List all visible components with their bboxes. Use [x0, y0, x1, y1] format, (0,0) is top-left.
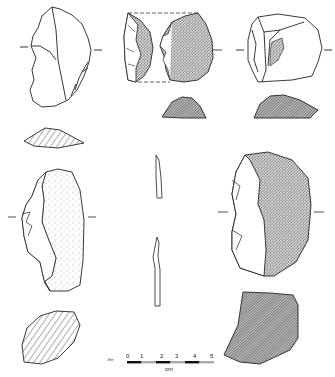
artifact-a-section	[24, 128, 84, 148]
artifact-d-section	[22, 311, 80, 364]
artifact-b-section	[162, 97, 206, 118]
artifact-b	[124, 13, 222, 82]
artifact-e	[153, 155, 162, 306]
scale-tick-5: 5	[210, 353, 213, 359]
scale-tick-0: 0	[126, 353, 129, 359]
scale-tick-2: 2	[160, 353, 163, 359]
scale-tick-1: 1	[140, 353, 143, 359]
artifact-a	[20, 7, 102, 107]
artifact-c-section	[254, 95, 318, 118]
artifact-f	[218, 152, 324, 276]
artifact-plate	[0, 0, 335, 377]
scale-unit: cm	[165, 366, 173, 372]
artifact-c-cortex	[270, 38, 284, 66]
scale-bar	[127, 361, 214, 363]
scale-tick-4: 4	[193, 353, 196, 359]
artifact-f-section	[224, 292, 298, 364]
scale-signature: Jnr	[107, 357, 114, 362]
artifact-d	[8, 169, 96, 291]
scale-tick-3: 3	[175, 353, 178, 359]
